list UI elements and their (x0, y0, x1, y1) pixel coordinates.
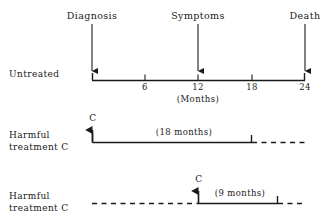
axis-tick-label-24: 24 (299, 82, 311, 93)
diagram-canvas (0, 0, 333, 221)
survival-span-label-early: (18 months) (156, 127, 212, 138)
row-label-harmful-treatment-c-early-line1: Harmful (9, 130, 50, 141)
event-label-diagnosis: Diagnosis (67, 10, 118, 22)
row-label-harmful-treatment-c-late-line2: treatment C (9, 203, 69, 214)
treatment-marker-label-early: C (89, 113, 96, 124)
axis-tick-label-6: 6 (142, 82, 148, 93)
axis-tick-label-18: 18 (246, 82, 258, 93)
axis-tick-label-12: 12 (192, 82, 204, 93)
row-label-harmful-treatment-c-late-line1: Harmful (9, 191, 50, 202)
timeline-diagram: Diagnosis Symptoms Death Untreated Harmf… (0, 0, 333, 221)
event-label-death: Death (290, 10, 321, 22)
survival-span-label-late: (9 months) (215, 188, 266, 199)
axis-unit-label: (Months) (177, 94, 219, 105)
untreated-axis (92, 73, 305, 81)
treatment-marker-label-late: C (195, 174, 202, 185)
row-label-harmful-treatment-c-early-line2: treatment C (9, 142, 69, 153)
event-label-symptoms: Symptoms (171, 10, 225, 22)
row-label-untreated: Untreated (9, 69, 59, 80)
